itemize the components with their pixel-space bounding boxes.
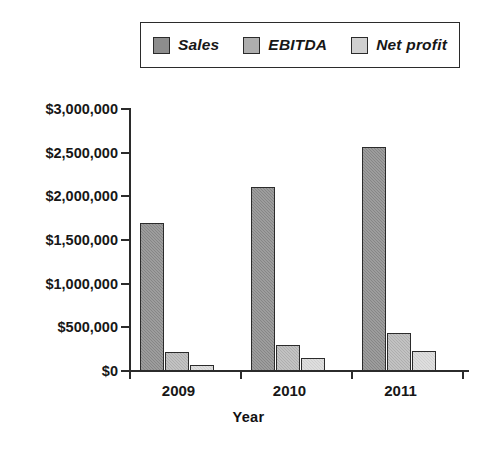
bar-net-profit-2011 (412, 351, 436, 371)
y-axis-tick-label: $3,000,000 (45, 101, 118, 117)
bar-ebitda-2010 (276, 345, 300, 371)
bar-sales-2010 (251, 187, 275, 371)
x-axis-title: Year (0, 409, 497, 425)
legend-item-sales: Sales (153, 36, 220, 54)
legend-swatch-sales-icon (153, 37, 170, 54)
x-axis-category-label-2011: 2011 (384, 382, 417, 399)
legend-swatch-ebitda-icon (243, 37, 260, 54)
y-axis-tick-label: $500,000 (58, 319, 118, 335)
x-axis-tick (129, 371, 131, 379)
x-axis-tick (240, 371, 242, 379)
legend-swatch-net-profit-icon (351, 37, 368, 54)
legend-item-net-profit: Net profit (351, 36, 447, 54)
bar-net-profit-2010 (301, 358, 325, 371)
x-axis-category-label-2010: 2010 (273, 382, 306, 399)
y-axis-tick-label: $2,000,000 (45, 188, 118, 204)
bar-chart: Sales EBITDA Net profit $3,000,000$2,500… (0, 0, 497, 460)
legend-label-sales: Sales (178, 36, 220, 54)
chart-legend: Sales EBITDA Net profit (140, 22, 460, 68)
x-axis-category-label-2009: 2009 (162, 382, 195, 399)
bar-net-profit-2009 (190, 365, 214, 371)
plot-area (129, 109, 462, 371)
bar-sales-2011 (362, 147, 386, 371)
legend-label-ebitda: EBITDA (268, 36, 327, 54)
bar-sales-2009 (140, 223, 164, 371)
x-axis-tick (351, 371, 353, 379)
y-axis-tick-labels: $3,000,000$2,500,000$2,000,000$1,500,000… (0, 0, 118, 460)
x-axis-tick (462, 371, 464, 379)
y-axis-tick-label: $2,500,000 (45, 145, 118, 161)
bar-ebitda-2011 (387, 333, 411, 371)
legend-label-net-profit: Net profit (376, 36, 447, 54)
y-axis-tick-label: $0 (102, 363, 118, 379)
y-axis-tick-label: $1,500,000 (45, 232, 118, 248)
legend-item-ebitda: EBITDA (243, 36, 327, 54)
bar-ebitda-2009 (165, 352, 189, 371)
y-axis-tick-label: $1,000,000 (45, 276, 118, 292)
